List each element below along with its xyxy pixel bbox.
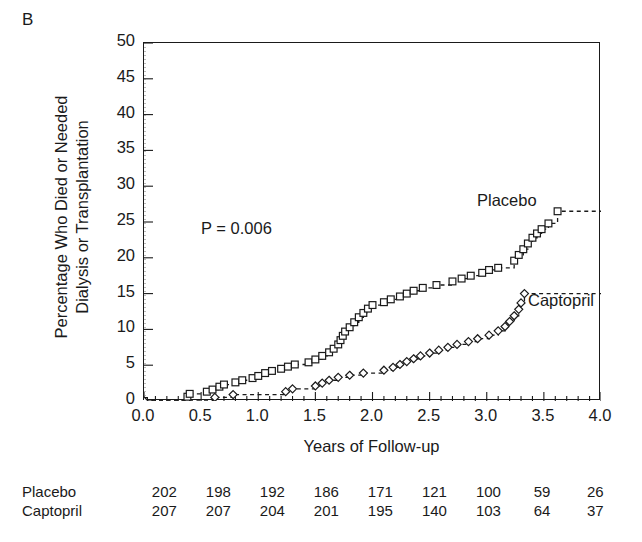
placebo-series-label: Placebo [477, 191, 537, 210]
at-risk-table-body: Placebo2021981921861711211005926Captopri… [22, 482, 622, 520]
data-point-marker [419, 284, 426, 291]
data-point-marker [467, 272, 474, 279]
at-risk-value: 26 [569, 482, 622, 501]
y-axis-tick-label: 35 [101, 138, 135, 157]
at-risk-value: 140 [407, 501, 461, 520]
at-risk-value: 100 [461, 482, 515, 501]
data-point-marker [346, 371, 354, 379]
at-risk-value: 201 [299, 501, 353, 520]
data-point-marker [255, 373, 262, 380]
y-axis-tick-label: 15 [101, 282, 135, 301]
data-point-marker [209, 386, 216, 393]
x-axis-tick-label: 1.5 [289, 406, 339, 425]
data-point-marker [433, 282, 440, 289]
data-point-marker [538, 226, 545, 233]
data-point-marker [278, 365, 285, 372]
x-axis-tick-label: 4.0 [575, 406, 625, 425]
data-point-marker [403, 290, 410, 297]
x-axis-tick-label: 2.5 [404, 406, 454, 425]
data-point-marker [545, 220, 552, 227]
at-risk-value: 207 [137, 501, 191, 520]
at-risk-value: 171 [353, 482, 407, 501]
at-risk-value: 103 [461, 501, 515, 520]
at-risk-value: 198 [191, 482, 245, 501]
at-risk-value: 64 [515, 501, 568, 520]
at-risk-row-label: Placebo [22, 482, 137, 501]
x-axis-tick-label: 0.0 [118, 406, 168, 425]
at-risk-value: 204 [245, 501, 299, 520]
y-axis-label-line2: Dialysis or Transplantation [72, 37, 93, 397]
y-axis-label: Percentage Who Died or Needed Dialysis o… [51, 37, 93, 397]
data-point-marker [426, 349, 434, 357]
x-axis-tick-label: 1.0 [232, 406, 282, 425]
at-risk-value: 192 [245, 482, 299, 501]
y-axis-tick-label: 20 [101, 246, 135, 265]
panel-label: B [22, 10, 33, 30]
data-point-marker [305, 359, 312, 366]
data-point-marker [232, 379, 239, 386]
x-axis-tick-label: 3.0 [461, 406, 511, 425]
data-point-marker [554, 208, 561, 215]
data-point-marker [486, 267, 493, 274]
data-point-marker [285, 363, 292, 370]
y-axis-tick-labels: 05101520253035404550 [95, 42, 135, 400]
y-axis-tick-label: 50 [101, 31, 135, 50]
pvalue-annotation: P = 0.006 [201, 219, 272, 238]
at-risk-row: Captopril2072072042011951401036437 [22, 501, 622, 520]
x-axis-tick-label: 3.5 [518, 406, 568, 425]
x-axis-tick-labels: 0.00.51.01.52.02.53.03.54.0 [143, 406, 600, 432]
x-axis-tick-label: 2.0 [347, 406, 397, 425]
at-risk-row-label: Captopril [22, 501, 137, 520]
at-risk-value: 195 [353, 501, 407, 520]
data-point-marker [186, 390, 193, 397]
y-axis-tick-label: 45 [101, 67, 135, 86]
at-risk-table: Placebo2021981921861711211005926Captopri… [22, 482, 622, 520]
data-point-marker [291, 361, 298, 368]
data-point-marker [449, 278, 456, 285]
data-point-marker [410, 287, 417, 294]
data-point-marker [269, 368, 276, 375]
data-point-marker [359, 369, 367, 377]
data-point-marker [239, 377, 246, 384]
y-axis-tick-label: 40 [101, 103, 135, 122]
data-point-marker [479, 269, 486, 276]
y-axis-tick-label: 5 [101, 353, 135, 372]
x-axis-tick-label: 0.5 [175, 406, 225, 425]
plot-area: P = 0.006 [143, 42, 600, 400]
data-point-marker [221, 381, 228, 388]
data-point-marker [495, 264, 502, 271]
data-point-marker [397, 293, 404, 300]
data-point-marker [381, 299, 388, 306]
at-risk-value: 202 [137, 482, 191, 501]
data-point-marker [444, 343, 452, 351]
at-risk-row: Placebo2021981921861711211005926 [22, 482, 622, 501]
at-risk-value: 207 [191, 501, 245, 520]
x-axis-label: Years of Follow-up [143, 437, 600, 456]
y-axis-tick-label: 10 [101, 317, 135, 336]
at-risk-value: 59 [515, 482, 568, 501]
y-axis-tick-label: 30 [101, 174, 135, 193]
data-point-marker [387, 296, 394, 303]
data-point-marker [485, 331, 493, 339]
data-point-marker [312, 356, 319, 363]
data-point-marker [319, 352, 326, 359]
captopril-series-label: Captopril [528, 291, 594, 310]
at-risk-value: 186 [299, 482, 353, 501]
data-point-marker [458, 275, 465, 282]
y-axis-tick-label: 25 [101, 210, 135, 229]
y-axis-label-line1: Percentage Who Died or Needed [51, 37, 72, 397]
at-risk-value: 121 [407, 482, 461, 501]
data-point-marker [262, 370, 269, 377]
data-point-marker [494, 327, 502, 335]
data-point-marker [369, 302, 376, 309]
at-risk-value: 37 [569, 501, 622, 520]
